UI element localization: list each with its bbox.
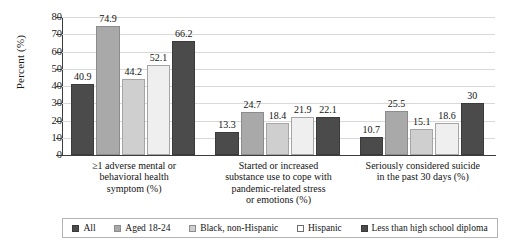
bar (360, 137, 383, 155)
bar-value-label: 66.2 (165, 29, 202, 39)
legend-item[interactable]: Less than high school diploma (361, 223, 488, 233)
x-axis-group-label-line: ≥1 adverse mental or (50, 160, 218, 171)
legend-item-label: All (83, 223, 95, 233)
x-axis-line (62, 155, 496, 156)
bar (96, 26, 119, 155)
bar-value-label: 74.9 (89, 14, 126, 24)
bar-value-label: 24.7 (234, 100, 271, 110)
legend-item-label: Hispanic (308, 223, 342, 233)
x-axis-group-label-line: Seriously considered suicide (339, 160, 507, 171)
bar-value-label: 25.5 (378, 99, 415, 109)
legend-item[interactable]: Black, non-Hispanic (189, 223, 278, 233)
bar (435, 123, 458, 155)
bar (410, 129, 433, 155)
x-axis-group-label-line: substance use to cope with (194, 171, 362, 182)
bar (461, 103, 484, 155)
x-axis-group-label-line: or emotions (%) (194, 194, 362, 205)
legend-item-label: Black, non-Hispanic (200, 223, 278, 233)
plot-area: 40.974.944.252.166.213.324.718.421.922.1… (62, 17, 495, 155)
legend-item-label: Less than high school diploma (372, 223, 488, 233)
gridline (62, 17, 495, 18)
bar (71, 84, 94, 155)
legend-swatch-icon (189, 225, 196, 232)
x-axis-group-label: Seriously considered suicidein the past … (339, 160, 507, 183)
chart-legend[interactable]: AllAged 18-24Black, non-HispanicHispanic… (62, 218, 498, 238)
bar-value-label: 22.1 (309, 105, 346, 115)
legend-item[interactable]: Aged 18-24 (114, 223, 170, 233)
x-axis-group-label: Started or increasedsubstance use to cop… (194, 160, 362, 206)
bar (316, 117, 339, 155)
legend-swatch-icon (114, 225, 121, 232)
x-axis-group-label-line: symptom (%) (50, 183, 218, 194)
legend-swatch-icon (72, 225, 79, 232)
bar (291, 117, 314, 155)
x-axis-group-label: ≥1 adverse mental orbehavioral healthsym… (50, 160, 218, 194)
y-axis-ticks: 01020304050607080 (0, 0, 62, 251)
bar-chart: Percent (%) 01020304050607080 40.974.944… (0, 0, 510, 251)
gridline (62, 34, 495, 35)
x-axis-group-label-line: in the past 30 days (%) (339, 171, 507, 182)
legend-item-label: Aged 18-24 (125, 223, 170, 233)
x-axis-group-label-line: behavioral health (50, 171, 218, 182)
bar (172, 41, 195, 155)
bar (215, 132, 238, 155)
gridline (62, 52, 495, 53)
x-axis-group-label-line: Started or increased (194, 160, 362, 171)
x-axis-group-label-line: pandemic-related stress (194, 183, 362, 194)
bar (147, 65, 170, 155)
legend-swatch-icon (297, 225, 304, 232)
bar (122, 79, 145, 155)
legend-item[interactable]: Hispanic (297, 223, 342, 233)
bar (266, 123, 289, 155)
bar-value-label: 30 (454, 91, 491, 101)
legend-swatch-icon (361, 225, 368, 232)
legend-item[interactable]: All (72, 223, 95, 233)
